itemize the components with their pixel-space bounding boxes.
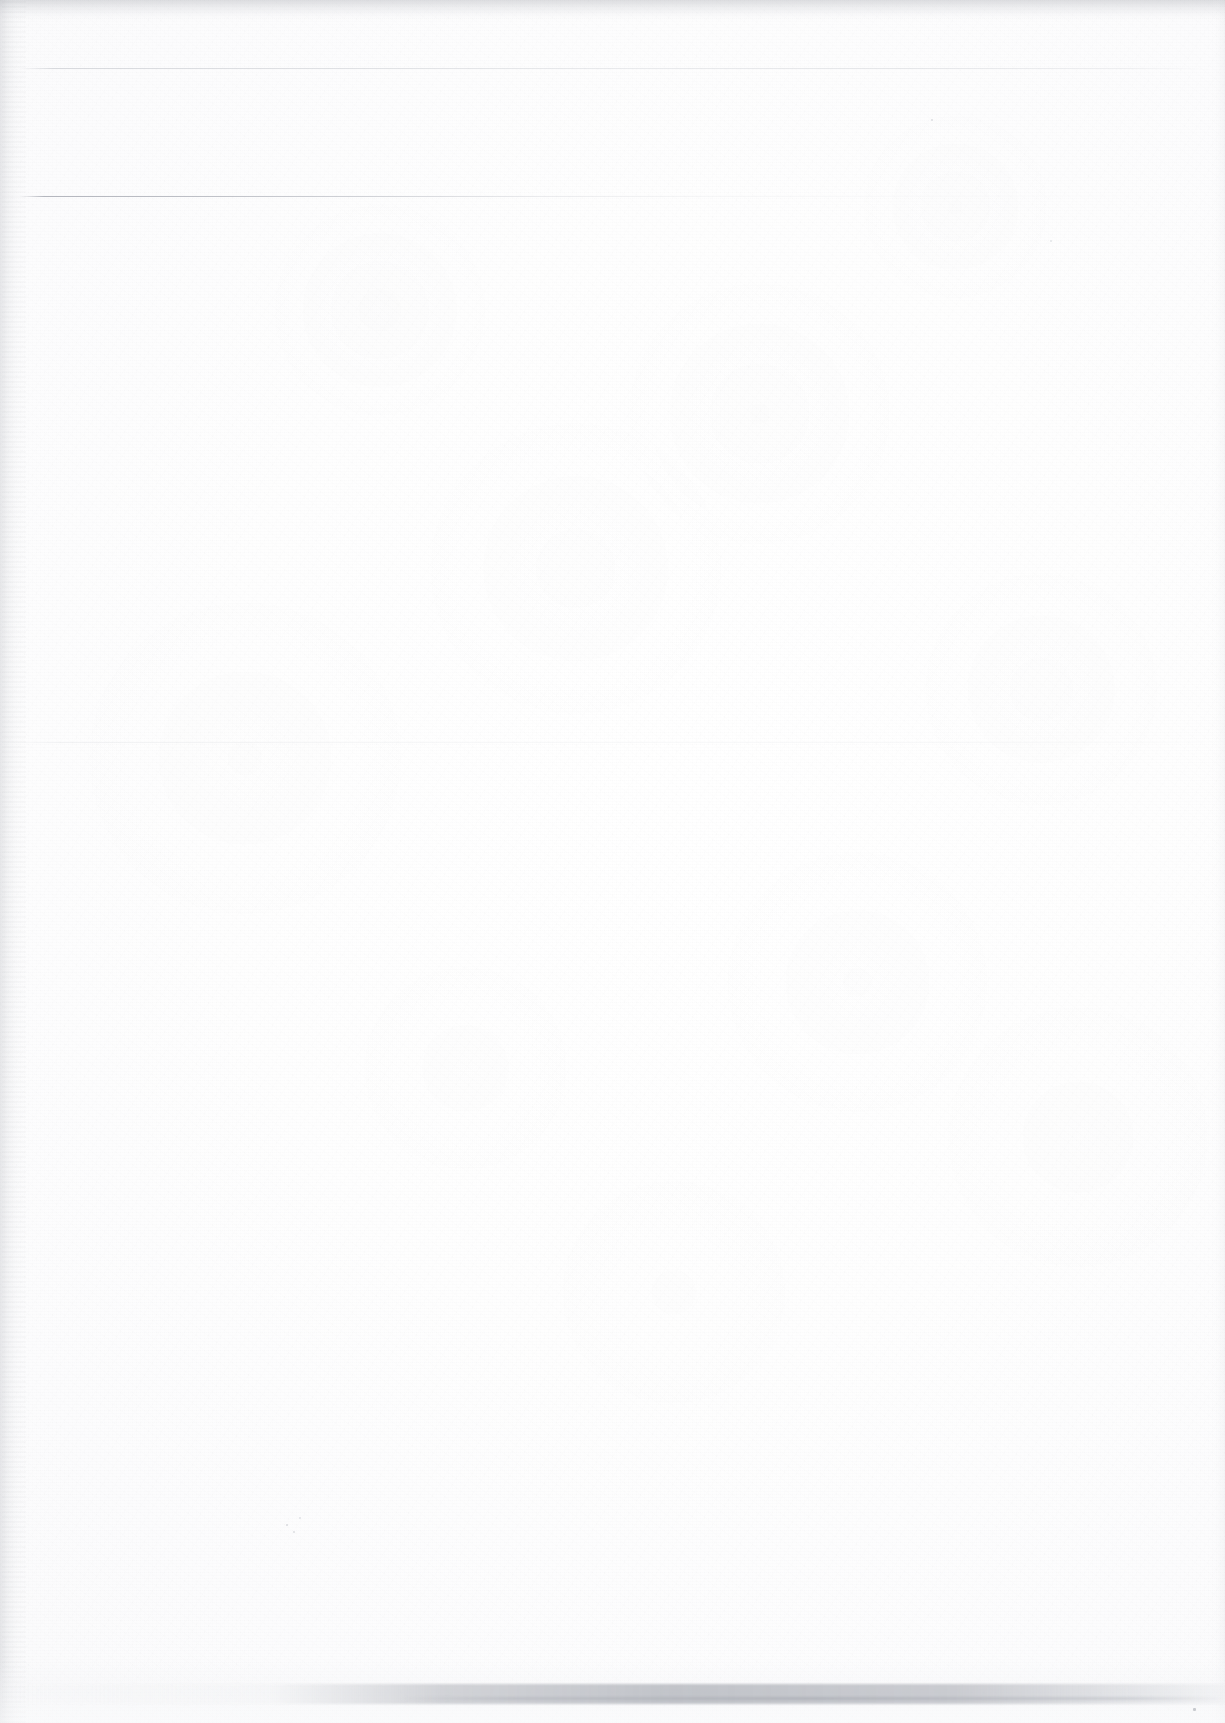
paper-surface [0,0,1225,1723]
scanned-page [0,0,1225,1723]
